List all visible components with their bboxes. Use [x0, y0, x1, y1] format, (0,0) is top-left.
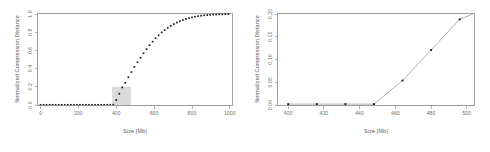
left-data-point	[155, 37, 157, 39]
left-data-point	[203, 15, 205, 17]
left-xtick-2: 400	[112, 110, 121, 116]
left-data-point	[188, 17, 190, 19]
left-data-point	[158, 34, 160, 36]
left-ytick-4: 0.8	[27, 28, 33, 35]
left-data-point	[137, 61, 139, 63]
left-x-axis-title: Size [Mb]	[123, 128, 147, 134]
left-ytick-2: 0.4	[27, 65, 33, 72]
left-data-point	[176, 22, 178, 24]
right-data-point	[316, 103, 318, 105]
left-data-point	[146, 48, 148, 50]
left-data-point	[140, 57, 142, 59]
left-y-axis-title: Normalized Compression Distance	[14, 15, 20, 103]
right-ytick-3: 0.15	[267, 32, 273, 42]
right-ytick-2: 0.10	[267, 54, 273, 64]
right-xtick-1: 420	[319, 110, 328, 116]
left-data-points	[40, 13, 230, 105]
left-data-point	[134, 66, 136, 68]
left-data-point	[218, 14, 220, 16]
left-xtick-0: 0	[39, 110, 42, 116]
overview-plot-panel: Normalized Compression Distance 0.0 0.2 …	[0, 0, 245, 152]
right-trend-line	[288, 14, 474, 105]
left-data-point	[118, 93, 120, 95]
left-ytick-0: 0.0	[27, 101, 33, 108]
right-data-series	[287, 14, 474, 106]
left-data-point	[149, 44, 151, 46]
right-ytick-0: 0.00	[267, 100, 273, 110]
right-ytick-1: 0.05	[267, 77, 273, 87]
left-data-point	[128, 76, 130, 78]
left-data-point	[194, 16, 196, 18]
left-data-point	[170, 25, 172, 27]
left-ytick-1: 0.2	[27, 83, 33, 90]
left-data-point	[124, 82, 126, 84]
figure-container: Normalized Compression Distance 0.0 0.2 …	[0, 0, 490, 152]
right-ytick-4: 0.20	[267, 9, 273, 19]
right-data-point	[344, 103, 346, 105]
right-data-point	[287, 103, 289, 105]
right-xtick-5: 500	[462, 110, 471, 116]
left-y-axis: 0.0 0.2 0.4 0.6 0.8 1.0	[27, 10, 38, 108]
left-plot-frame	[38, 14, 233, 106]
right-plot-frame	[278, 14, 475, 106]
left-data-point	[224, 13, 226, 15]
left-data-point	[161, 32, 163, 34]
right-xtick-2: 440	[355, 110, 364, 116]
left-x-axis: 0 200 400 600 800 1000	[38, 106, 236, 117]
right-data-point	[459, 18, 461, 20]
left-data-point	[179, 20, 181, 22]
left-data-point	[173, 23, 175, 25]
zoom-region-highlight	[112, 87, 131, 105]
right-data-point	[373, 103, 375, 105]
left-xtick-5: 1000	[224, 110, 236, 116]
left-xtick-1: 200	[74, 110, 83, 116]
right-xtick-0: 400	[284, 110, 293, 116]
right-y-axis-title: Normalized Compression Distance	[254, 15, 260, 103]
right-data-point	[430, 49, 432, 51]
left-data-point	[215, 14, 217, 16]
left-data-point	[167, 27, 169, 29]
left-ytick-5: 1.0	[27, 10, 33, 17]
left-data-point	[152, 41, 154, 43]
right-data-point	[402, 80, 404, 82]
left-data-point	[182, 19, 184, 21]
left-data-point	[221, 13, 223, 15]
overview-plot-svg: Normalized Compression Distance 0.0 0.2 …	[0, 0, 245, 152]
left-data-point	[206, 14, 208, 16]
left-data-point	[131, 71, 133, 73]
left-data-point	[212, 14, 214, 16]
right-xtick-4: 480	[427, 110, 436, 116]
right-y-axis: 0.00 0.05 0.10 0.15 0.20	[267, 9, 278, 110]
left-data-point	[143, 52, 145, 54]
right-xtick-3: 460	[391, 110, 400, 116]
right-x-axis: 400 420 440 460 480 500	[278, 106, 475, 117]
left-data-point	[200, 15, 202, 17]
right-x-axis-title: Size [Mb]	[364, 128, 388, 134]
left-data-point	[227, 13, 229, 15]
left-data-point	[209, 14, 211, 16]
left-data-point	[121, 87, 123, 89]
left-data-point	[115, 99, 117, 101]
left-xtick-4: 800	[188, 110, 197, 116]
left-data-point	[164, 29, 166, 31]
detail-plot-panel: Normalized Compression Distance 0.00 0.0…	[245, 0, 490, 152]
left-xtick-3: 600	[150, 110, 159, 116]
detail-plot-svg: Normalized Compression Distance 0.00 0.0…	[245, 0, 490, 152]
left-data-point	[191, 17, 193, 19]
left-data-point	[185, 18, 187, 20]
left-ytick-3: 0.6	[27, 47, 33, 54]
left-data-point	[197, 15, 199, 17]
